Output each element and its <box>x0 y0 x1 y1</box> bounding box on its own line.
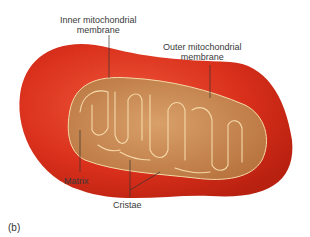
inner-membrane-label: Inner mitochondrial membrane <box>60 15 137 35</box>
outer-membrane-label-line2: membrane <box>163 52 242 62</box>
mitochondrion-diagram <box>0 0 310 237</box>
inner-membrane-label-line2: membrane <box>60 25 137 35</box>
outer-membrane-label: Outer mitochondrial membrane <box>163 42 242 62</box>
panel-label: (b) <box>8 222 20 233</box>
outer-membrane-label-line1: Outer mitochondrial <box>163 42 242 52</box>
matrix-label: Matrix <box>64 176 89 186</box>
cristae-label: Cristae <box>113 200 142 210</box>
inner-membrane-label-line1: Inner mitochondrial <box>60 15 137 25</box>
